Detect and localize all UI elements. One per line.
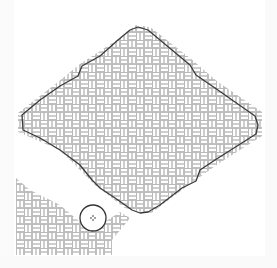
bottom-margin [0, 256, 277, 268]
marker-circle-icon[interactable] [80, 205, 106, 231]
hatched-region-main-diamond [18, 25, 262, 214]
map-drawing[interactable] [0, 0, 277, 268]
map-canvas[interactable]: Hatched polygon map view Location marker [0, 0, 277, 268]
location-marker[interactable] [80, 205, 106, 231]
right-margin [265, 0, 277, 268]
hatched-area-layer [16, 25, 262, 255]
